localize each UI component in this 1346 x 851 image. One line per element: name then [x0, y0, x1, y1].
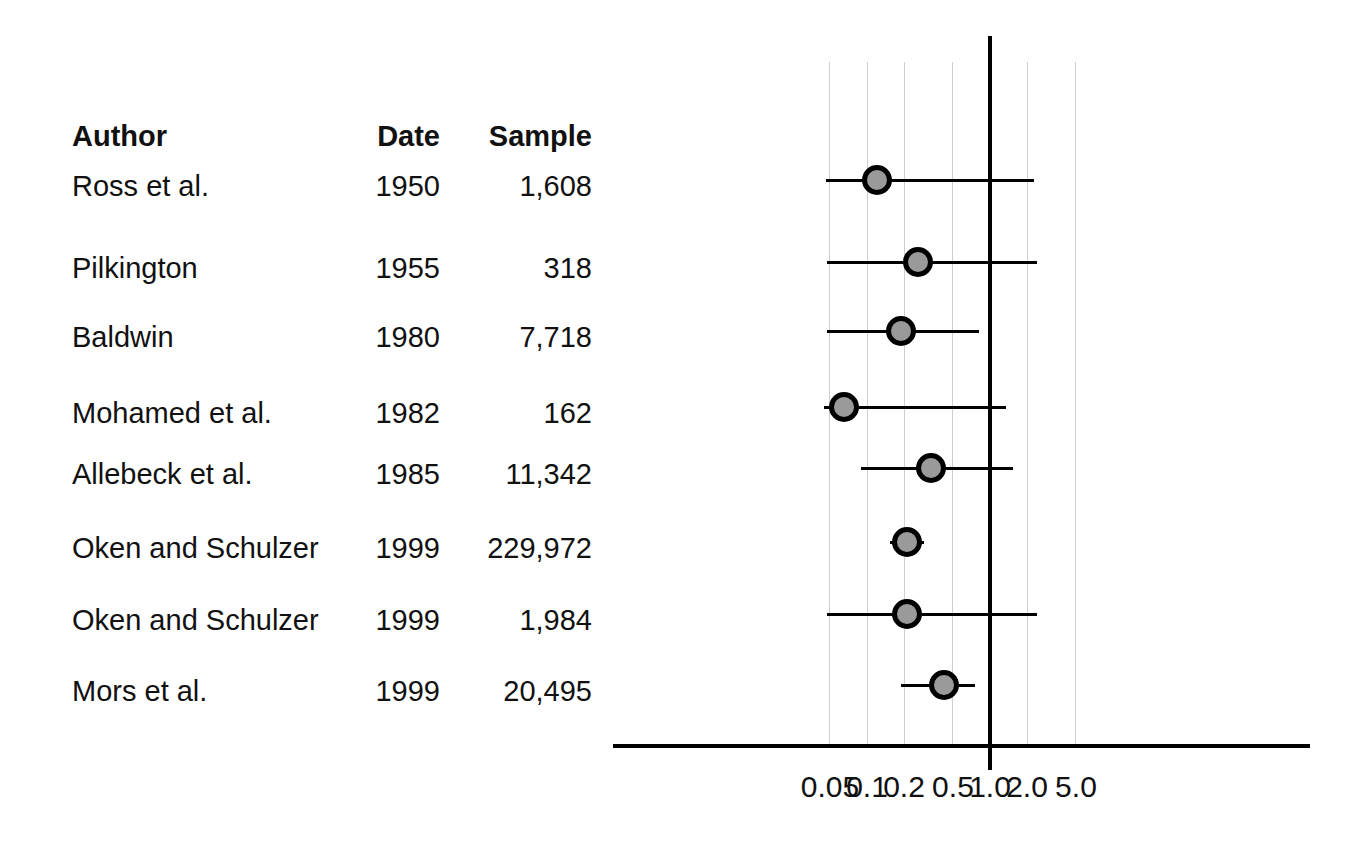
gridline-2.0 — [1027, 62, 1028, 744]
estimate-marker — [929, 670, 959, 700]
confidence-interval-bar — [827, 613, 1037, 616]
gridline-0.5 — [952, 62, 953, 744]
estimate-marker — [892, 599, 922, 629]
estimate-marker — [916, 453, 946, 483]
gridline-5.0 — [1075, 62, 1076, 744]
gridline-0.1 — [867, 62, 868, 744]
estimate-marker — [892, 527, 922, 557]
x-axis-line — [613, 744, 1310, 748]
forest-plot-figure: Author Date Sample Ross et al. 1950 1,60… — [0, 0, 1346, 851]
reference-line-1.0 — [988, 36, 992, 770]
estimate-marker — [829, 392, 859, 422]
confidence-interval-bar — [826, 179, 1035, 182]
estimate-marker — [886, 316, 916, 346]
plot-area: 0.050.10.20.51.02.05.0 — [0, 0, 1346, 851]
gridline-0.2 — [904, 62, 905, 744]
estimate-marker — [862, 165, 892, 195]
x-tick-label-5.0: 5.0 — [1016, 770, 1136, 804]
estimate-marker — [903, 247, 933, 277]
